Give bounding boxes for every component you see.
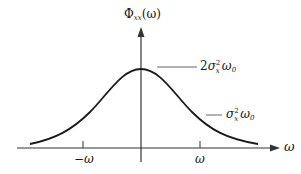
peak-sigma-sup: 2 xyxy=(216,60,220,67)
x-axis-arrow-icon xyxy=(270,145,280,152)
y-axis-label: Φxx(ω) xyxy=(124,8,161,22)
peak-sigma: σ xyxy=(208,59,216,73)
half-omega: ω xyxy=(240,107,250,121)
x-axis-label: ω xyxy=(284,140,295,153)
peak-omega: ω xyxy=(222,59,232,73)
tick-label-neg-omega: −ω xyxy=(74,153,94,165)
peak-value-annotation: 2σ2xω0 xyxy=(200,60,236,74)
half-sigma-sub: x xyxy=(234,116,238,123)
diagram-canvas xyxy=(0,0,301,174)
tick-label-pos-omega-text: ω xyxy=(195,152,205,166)
y-axis-arrow-icon xyxy=(138,27,145,37)
half-sigma-sup: 2 xyxy=(234,108,238,115)
y-axis-label-argument: (ω) xyxy=(142,7,161,21)
peak-omega-sub: 0 xyxy=(232,66,236,74)
half-sigma: σ xyxy=(226,107,234,121)
power-spectral-density-diagram: Φxx(ω) ω −ω ω 2σ2xω0 σ2xω0 xyxy=(0,0,301,174)
y-axis-label-subscript: xx xyxy=(134,14,142,22)
spectrum-curve xyxy=(30,69,258,144)
y-axis-label-symbol: Φ xyxy=(124,7,134,21)
peak-sigma-sub: x xyxy=(216,68,220,75)
tick-label-pos-omega: ω xyxy=(195,153,205,165)
half-omega-sub: 0 xyxy=(250,114,254,122)
tick-label-neg-omega-text: −ω xyxy=(74,152,94,166)
x-axis-label-text: ω xyxy=(284,139,295,154)
peak-coeff: 2 xyxy=(200,59,208,73)
half-value-annotation: σ2xω0 xyxy=(226,108,254,122)
